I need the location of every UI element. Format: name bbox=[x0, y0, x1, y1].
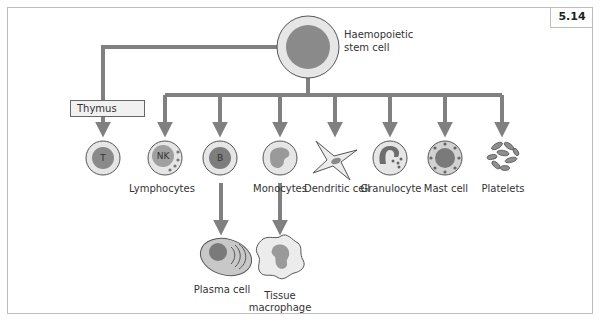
mast-cell-label: Mast cell bbox=[424, 183, 468, 195]
platelets-icon bbox=[487, 141, 520, 171]
granulocyte-icon bbox=[373, 141, 407, 175]
stem-cell-label-line2: stem cell bbox=[344, 42, 389, 54]
granulocyte-label: Granulocyte bbox=[360, 183, 421, 195]
haemopoiesis-diagram bbox=[0, 0, 599, 325]
macrophage-icon bbox=[256, 235, 304, 279]
nk-cell-label: NK bbox=[157, 151, 170, 161]
plasma-cell-label: Plasma cell bbox=[194, 284, 250, 296]
macrophage-label-line1: Tissue bbox=[264, 290, 296, 302]
macrophage-label-line2: macrophage bbox=[249, 302, 312, 314]
plasma-cell-icon bbox=[196, 233, 256, 281]
stem-cell-label-line1: Haemopoietic bbox=[344, 29, 413, 41]
figure-number: 5.14 bbox=[550, 7, 593, 28]
mast-cell-icon bbox=[428, 141, 462, 175]
thymus-box: Thymus bbox=[70, 100, 145, 117]
stem-cell-icon bbox=[277, 16, 339, 78]
platelets-label: Platelets bbox=[481, 183, 524, 195]
dendritic-cell-icon bbox=[313, 141, 357, 180]
lymphocytes-label: Lymphocytes bbox=[129, 183, 195, 195]
monocyte-icon bbox=[263, 141, 297, 175]
t-cell-label: T bbox=[100, 153, 106, 163]
b-cell-label: B bbox=[217, 153, 223, 163]
monocytes-label: Monocytes bbox=[253, 183, 307, 195]
